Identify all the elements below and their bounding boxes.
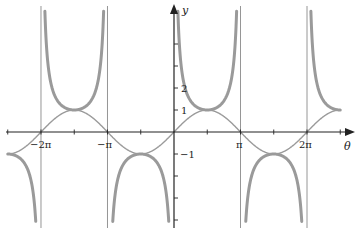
- x-tick-label-neg-pi: −π: [97, 139, 112, 150]
- y-axis-label: y: [181, 4, 189, 17]
- y-tick-label-1: 1: [181, 105, 187, 116]
- x-tick-label-neg-2pi: −2π: [30, 139, 52, 150]
- x-tick-label-2pi: 2π: [299, 139, 312, 150]
- y-axis-arrow-icon: [170, 4, 178, 14]
- x-axis-label: θ: [344, 140, 351, 153]
- x-axis-arrow-icon: [345, 128, 355, 136]
- chart: y θ −2π −π π 2π 1 2 −1: [0, 0, 357, 230]
- x-tick-label-pi: π: [236, 139, 243, 150]
- y-tick-label-neg-1: −1: [180, 149, 195, 160]
- y-tick-label-2: 2: [181, 83, 187, 94]
